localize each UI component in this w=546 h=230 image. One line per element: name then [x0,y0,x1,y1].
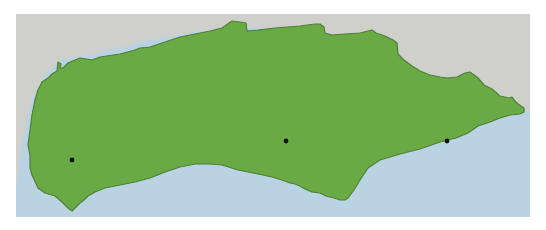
marker-east-dot-icon[interactable] [445,139,450,144]
map-frame [16,14,530,217]
marker-west-dot-icon[interactable] [70,158,75,163]
map-canvas [16,14,530,217]
marker-center-dot-icon[interactable] [284,139,289,144]
